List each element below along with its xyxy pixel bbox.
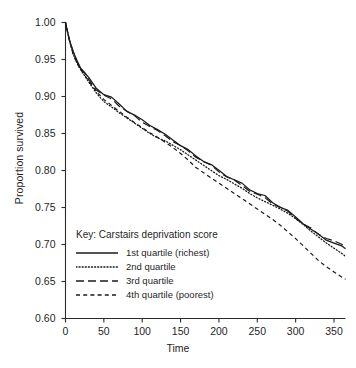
y-axis-tick-label: 0.95 <box>22 53 56 65</box>
x-axis-tick-label: 200 <box>201 325 237 337</box>
legend: Key: Carstairs deprivation score 1st qua… <box>76 229 256 302</box>
y-axis-tick-label: 0.70 <box>22 238 56 250</box>
x-axis-tick-label: 100 <box>124 325 160 337</box>
legend-entry-label: 4th quartile (poorest) <box>126 289 214 300</box>
legend-entry-label: 1st quartile (richest) <box>126 247 209 258</box>
y-axis-tick-label: 0.85 <box>22 127 56 139</box>
x-axis-label: Time <box>0 342 356 354</box>
legend-entry: 2nd quartile <box>76 260 256 273</box>
y-axis-tick-label: 0.80 <box>22 164 56 176</box>
x-axis-tick-label: 350 <box>316 325 352 337</box>
legend-line-swatch <box>76 290 118 300</box>
y-axis-tick-label: 0.90 <box>22 90 56 102</box>
legend-entry: 1st quartile (richest) <box>76 246 256 259</box>
legend-entry: 3rd quartile <box>76 274 256 287</box>
y-axis-tick-label: 0.65 <box>22 275 56 287</box>
x-axis-tick-label: 250 <box>239 325 275 337</box>
x-axis-tick-label: 50 <box>86 325 122 337</box>
series-line <box>66 23 346 249</box>
y-axis-tick-label: 0.60 <box>22 312 56 324</box>
survival-chart-figure: Proportion survived Time 1.000.950.900.8… <box>0 0 356 368</box>
series-line <box>66 23 346 257</box>
legend-title: Key: Carstairs deprivation score <box>76 229 256 240</box>
series-line <box>66 23 346 247</box>
x-axis-tick-label: 300 <box>278 325 314 337</box>
legend-entries: 1st quartile (richest)2nd quartile3rd qu… <box>76 246 256 301</box>
x-axis-tick-label: 0 <box>48 325 84 337</box>
y-axis-tick-label: 0.75 <box>22 201 56 213</box>
page-bottom-rule <box>0 362 356 363</box>
legend-entry-label: 2nd quartile <box>126 261 176 272</box>
legend-line-swatch <box>76 262 118 272</box>
legend-line-swatch <box>76 276 118 286</box>
x-axis-tick-label: 150 <box>163 325 199 337</box>
y-axis-tick-label: 1.00 <box>22 16 56 28</box>
legend-entry: 4th quartile (poorest) <box>76 288 256 301</box>
legend-line-swatch <box>76 248 118 258</box>
legend-entry-label: 3rd quartile <box>126 275 174 286</box>
